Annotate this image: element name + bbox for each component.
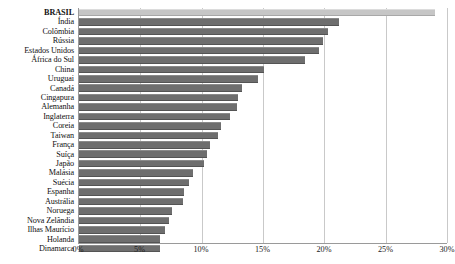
bar-row (79, 46, 447, 55)
category-label: Estados Unidos (0, 46, 74, 55)
category-label-row: Cingapura (0, 93, 78, 102)
category-label: Ilhas Maurício (0, 225, 74, 234)
bar-row (79, 131, 447, 140)
category-label-row: Suécia (0, 178, 78, 187)
category-label-row: Dinamarca (0, 244, 78, 253)
bar[interactable] (79, 132, 218, 140)
bar-row (79, 36, 447, 45)
bar-row (79, 235, 447, 244)
category-label: Japão (0, 159, 74, 168)
category-label: Austrália (0, 197, 74, 206)
bar[interactable] (79, 150, 207, 158)
bar[interactable] (79, 122, 221, 130)
category-label: Canadá (0, 84, 74, 93)
bar-row (79, 8, 447, 17)
x-tick-label: 5% (134, 245, 145, 254)
bar[interactable] (79, 226, 165, 234)
category-label-row: Noruega (0, 206, 78, 215)
category-label-row: Alemanha (0, 102, 78, 111)
bar[interactable] (79, 113, 230, 121)
category-label: Espanha (0, 187, 74, 196)
category-label-row: Índia (0, 17, 78, 26)
bar-row (79, 17, 447, 26)
category-label-row: Estados Unidos (0, 46, 78, 55)
x-axis: 0%5%10%15%20%25%30% (78, 245, 447, 261)
bar[interactable] (79, 169, 193, 177)
x-tick-label: 25% (378, 245, 393, 254)
bar[interactable] (79, 37, 323, 45)
category-label-row: França (0, 140, 78, 149)
bar-row (79, 65, 447, 74)
bar[interactable] (79, 47, 319, 55)
category-label: África do Sul (0, 55, 74, 64)
category-label: Inglaterra (0, 112, 74, 121)
bar[interactable] (79, 56, 305, 64)
bar-row (79, 121, 447, 130)
bar[interactable] (79, 179, 189, 187)
bar[interactable] (79, 188, 184, 196)
bar-row (79, 93, 447, 102)
bar-row (79, 150, 447, 159)
bar[interactable] (79, 217, 169, 225)
category-label-row: África do Sul (0, 55, 78, 64)
category-label-row: Malásia (0, 168, 78, 177)
category-label-row: Inglaterra (0, 112, 78, 121)
category-label: Alemanha (0, 102, 74, 111)
bar[interactable] (79, 75, 258, 83)
bar[interactable] (79, 94, 238, 102)
bar-row (79, 216, 447, 225)
bar[interactable] (79, 84, 242, 92)
category-label-row: Ilhas Maurício (0, 225, 78, 234)
bar[interactable] (79, 207, 172, 215)
x-tick-label: 30% (439, 245, 454, 254)
x-tick-label: 20% (316, 245, 331, 254)
category-label: Suécia (0, 178, 74, 187)
category-label: Índia (0, 17, 74, 26)
category-label-row: Canadá (0, 84, 78, 93)
bar[interactable] (79, 28, 328, 36)
bar-row (79, 197, 447, 206)
x-tick-label: 10% (193, 245, 208, 254)
category-label-row: Rússia (0, 36, 78, 45)
category-label-row: Suíça (0, 150, 78, 159)
category-label-row: Nova Zelândia (0, 216, 78, 225)
category-label: Malásia (0, 168, 74, 177)
bar-row (79, 74, 447, 83)
category-label-row: Colômbia (0, 27, 78, 36)
category-label: Nova Zelândia (0, 216, 74, 225)
bar[interactable] (79, 66, 264, 74)
category-label-row: Austrália (0, 197, 78, 206)
bar-row (79, 84, 447, 93)
bar[interactable] (79, 235, 160, 243)
category-label-row: Taiwan (0, 131, 78, 140)
bar-row (79, 102, 447, 111)
bar-row (79, 140, 447, 149)
bar[interactable] (79, 141, 210, 149)
category-label-row: Uruguai (0, 74, 78, 83)
category-label-row: Holanda (0, 235, 78, 244)
bar[interactable] (79, 9, 435, 17)
bar[interactable] (79, 18, 339, 26)
category-label: Coreia (0, 121, 74, 130)
category-label: França (0, 140, 74, 149)
category-label-row: Coreia (0, 121, 78, 130)
category-label: China (0, 65, 74, 74)
bar-row (79, 225, 447, 234)
category-label: Cingapura (0, 93, 74, 102)
category-label: Uruguai (0, 74, 74, 83)
plot-area: BRASILÍndiaColômbiaRússiaEstados UnidosÁ… (0, 8, 447, 244)
bar-row (79, 168, 447, 177)
category-label: Noruega (0, 206, 74, 215)
bar-row (79, 206, 447, 215)
bar-row (79, 27, 447, 36)
bar[interactable] (79, 198, 183, 206)
bar-row (79, 178, 447, 187)
bar-row (79, 187, 447, 196)
bar[interactable] (79, 103, 237, 111)
category-label: Dinamarca (0, 244, 74, 253)
category-label-row: Japão (0, 159, 78, 168)
x-tick-label: 0% (73, 245, 84, 254)
bar[interactable] (79, 160, 204, 168)
bar-row (79, 159, 447, 168)
gridline (447, 8, 448, 243)
